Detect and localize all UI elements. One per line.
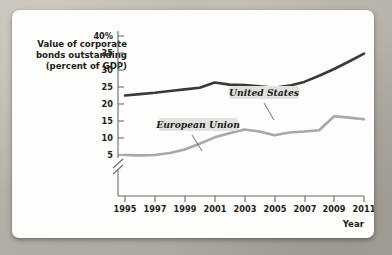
annotation-united-states: United States — [229, 86, 299, 120]
annotation-label-united-states: United States — [229, 87, 299, 98]
x-axis-title: Year — [342, 219, 365, 229]
y-tick-label-5: 5 — [107, 150, 113, 160]
line-chart: Value of corporate bonds outstanding (pe… — [12, 10, 374, 238]
x-tick-label-1999: 1999 — [174, 204, 197, 214]
y-tick-label-30: 30 — [102, 65, 114, 75]
y-tick-label-20: 20 — [102, 99, 114, 109]
y-tick-label-15: 15 — [102, 116, 114, 126]
chart-card: Value of corporate bonds outstanding (pe… — [12, 10, 374, 238]
x-tick-label-2005: 2005 — [264, 204, 287, 214]
x-tick-label-1997: 1997 — [144, 204, 167, 214]
y-tick-label-40: 40% — [93, 31, 113, 41]
leader-line-united-states — [264, 103, 274, 120]
x-tick-group — [125, 196, 364, 202]
y-axis-title-line-2: bonds outstanding — [36, 50, 127, 60]
chart-svg: Value of corporate bonds outstanding (pe… — [12, 10, 374, 238]
x-tick-label-2011: 2011 — [353, 204, 374, 214]
y-tick-label-25: 25 — [102, 82, 114, 92]
x-tick-label-2001: 2001 — [204, 204, 227, 214]
annotation-label-european-union: European Union — [155, 119, 240, 130]
x-tick-label-2003: 2003 — [234, 204, 257, 214]
y-axis-title-line-3: (percent of GDP) — [46, 61, 127, 71]
x-tick-label-2007: 2007 — [294, 204, 317, 214]
y-tick-label-10: 10 — [102, 133, 114, 143]
x-tick-label-2009: 2009 — [323, 204, 346, 214]
x-tick-label-1995: 1995 — [114, 204, 137, 214]
y-tick-label-35: 35 — [102, 48, 114, 58]
y-axis-title-line-1: Value of corporate — [37, 39, 127, 49]
